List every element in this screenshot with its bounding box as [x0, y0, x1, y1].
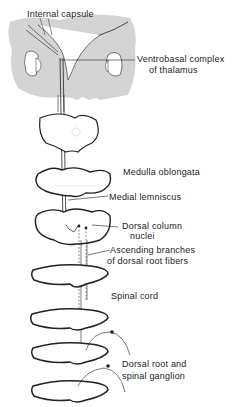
label-dorsal-root-line2: spinal ganglion: [122, 371, 185, 381]
label-internal-capsule: Internal capsule: [27, 9, 94, 19]
label-ascending-line1: Ascending branches: [110, 245, 195, 255]
spinal-section-2: [31, 309, 108, 330]
spinal-section-4: [32, 381, 108, 402]
upper-medulla-section: [36, 168, 111, 197]
midbrain-section: [40, 114, 99, 152]
label-ascending-line2: of dorsal root fibers: [107, 256, 188, 266]
spinal-section-3: [32, 343, 108, 364]
label-ventrobasal-line1: Ventrobasal complex: [137, 54, 224, 64]
somatosensory-pathway-diagram: Internal capsule Ventrobasal complex of …: [0, 0, 233, 407]
label-medial-lemniscus: Medial lemniscus: [109, 192, 181, 202]
label-ventrobasal-line2: of thalamus: [149, 65, 198, 75]
label-dorsal-column-line2: nuclei: [130, 231, 155, 241]
label-dorsal-column-line1: Dorsal column: [122, 221, 182, 231]
lower-medulla-section: [35, 209, 110, 245]
spinal-section-1: [32, 265, 108, 287]
label-spinal-cord: Spinal cord: [111, 291, 158, 301]
label-medulla-oblongata: Medulla oblongata: [123, 167, 200, 177]
label-dorsal-root-line1: Dorsal root and: [122, 359, 187, 369]
